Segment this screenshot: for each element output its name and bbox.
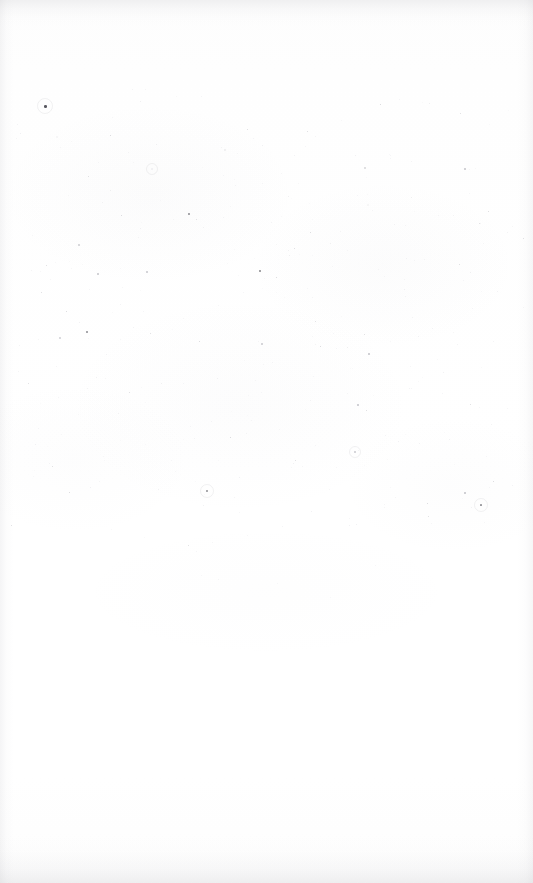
paper-background	[0, 0, 533, 883]
scanned-page	[0, 0, 533, 883]
